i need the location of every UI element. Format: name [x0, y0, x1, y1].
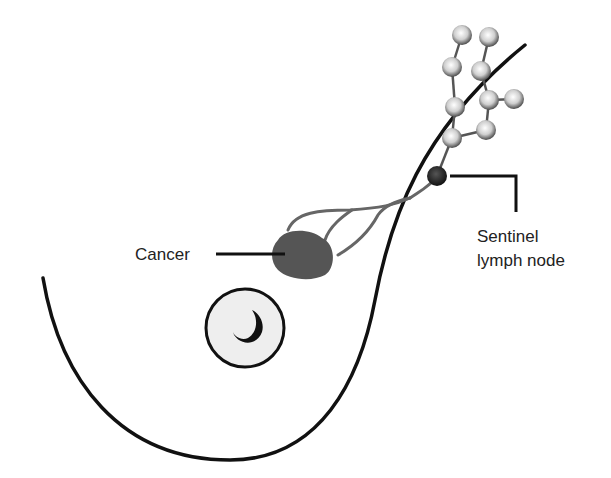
sentinel-label-line2: lymph node [477, 250, 565, 271]
sentinel-pointer [450, 176, 516, 212]
sentinel-node [427, 166, 447, 186]
sentinel-label-line1: Sentinel [477, 226, 538, 247]
areola [206, 289, 284, 367]
cancer-label: Cancer [135, 244, 190, 265]
